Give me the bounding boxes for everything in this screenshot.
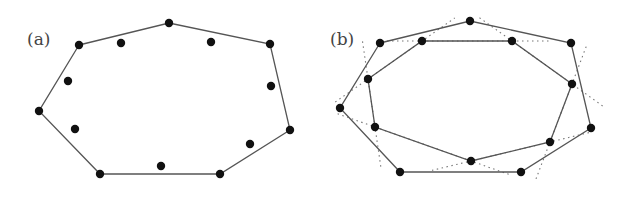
hull-vertex-point xyxy=(216,170,224,178)
panel-a: (a) xyxy=(27,19,294,178)
inner-vertex-point xyxy=(418,37,426,45)
hull-vertex-point xyxy=(35,107,43,115)
interior-point xyxy=(157,162,165,170)
inner-vertex-point xyxy=(508,37,516,45)
interior-point xyxy=(71,125,79,133)
panel-a-label: (a) xyxy=(27,29,50,49)
outer-vertex-point xyxy=(466,17,474,25)
inner-vertex-point xyxy=(364,75,372,83)
inner-vertex-point xyxy=(467,157,475,165)
inner-vertex-point xyxy=(546,138,554,146)
diagram-canvas: (a) (b) xyxy=(0,0,635,200)
hull-vertex-point xyxy=(266,40,274,48)
hull-vertex-point xyxy=(286,126,294,134)
interior-point xyxy=(117,39,125,47)
outer-vertex-point xyxy=(567,39,575,47)
panel-a-points xyxy=(35,19,294,178)
interior-point xyxy=(267,82,275,90)
outer-vertex-point xyxy=(336,104,344,112)
panel-b-label: (b) xyxy=(330,29,354,49)
interior-point xyxy=(207,38,215,46)
inner-vertex-point xyxy=(568,80,576,88)
outer-vertex-point xyxy=(376,39,384,47)
inner-vertex-point xyxy=(371,123,379,131)
outer-vertex-point xyxy=(396,168,404,176)
panel-b-inner-polygon xyxy=(368,41,572,161)
panel-b: (b) xyxy=(330,17,605,180)
hull-vertex-point xyxy=(75,41,83,49)
outer-vertex-point xyxy=(587,124,595,132)
interior-point xyxy=(64,77,72,85)
hull-vertex-point xyxy=(96,170,104,178)
outer-vertex-point xyxy=(517,168,525,176)
interior-point xyxy=(246,140,254,148)
hull-vertex-point xyxy=(165,19,173,27)
